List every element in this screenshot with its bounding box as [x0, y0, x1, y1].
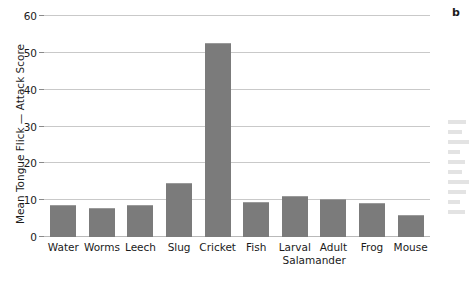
bar-cricket	[205, 43, 231, 237]
bar-slot	[44, 16, 83, 237]
x-axis-label-cricket: Cricket	[198, 241, 237, 253]
x-axis-label-frog: Frog	[353, 241, 392, 253]
bar-frog	[359, 203, 385, 237]
x-axis-label-adult: Adult	[314, 241, 353, 253]
bar-slot	[353, 16, 392, 237]
bar-slot	[83, 16, 122, 237]
figure-panel-b: b Mean Tongue Flick — Attack Score 01020…	[0, 0, 474, 284]
bleed-line	[448, 200, 460, 204]
bleed-line	[448, 130, 462, 134]
bleed-line	[448, 170, 462, 174]
bar-leech	[127, 205, 153, 237]
bar-slot	[237, 16, 276, 237]
x-axis-label-fish: Fish	[237, 241, 276, 253]
bar-slot	[160, 16, 199, 237]
y-axis-tick-label: 60	[24, 10, 37, 22]
page-bleed-through-text	[448, 120, 474, 280]
bleed-line	[448, 190, 466, 194]
bleed-line	[448, 210, 465, 214]
x-axis-sublabel-salamander: Salamander	[274, 254, 354, 266]
x-axis-label-slug: Slug	[160, 241, 199, 253]
bar-slot	[314, 16, 353, 237]
bar-slot	[391, 16, 430, 237]
y-axis-tick-label: 0	[30, 231, 37, 243]
x-axis-label-larval: Larval	[276, 241, 315, 253]
bleed-line	[448, 150, 460, 154]
panel-letter: b	[452, 6, 460, 19]
bar-water	[50, 205, 76, 237]
bar-adult	[320, 199, 346, 237]
y-axis-tick-label: 40	[24, 84, 37, 96]
x-axis-label-mouse: Mouse	[391, 241, 430, 253]
y-axis-title-wrapper: Mean Tongue Flick — Attack Score	[16, 0, 30, 221]
y-axis-tick-label: 50	[24, 47, 37, 59]
bar-slug	[166, 183, 192, 237]
y-axis-tick-label: 10	[24, 194, 37, 206]
y-axis-tick-label: 20	[24, 157, 37, 169]
plot-area: 0102030405060	[44, 16, 430, 237]
x-axis-label-leech: Leech	[121, 241, 160, 253]
bar-slot	[276, 16, 315, 237]
x-axis-labels: WaterWormsLeechSlugCricketFishLarvalAdul…	[44, 241, 430, 253]
bleed-line	[448, 120, 466, 124]
bleed-line	[448, 180, 469, 184]
x-axis-label-worms: Worms	[83, 241, 122, 253]
bar-worms	[89, 208, 115, 237]
bleed-line	[448, 140, 469, 144]
y-axis-tick-label: 30	[24, 121, 37, 133]
bar-slot	[121, 16, 160, 237]
bar-fish	[243, 202, 269, 237]
bar-slot	[198, 16, 237, 237]
x-axis-label-water: Water	[44, 241, 83, 253]
bleed-line	[448, 160, 465, 164]
bar-larval	[282, 196, 308, 237]
bar-series	[44, 16, 430, 237]
bar-mouse	[398, 215, 424, 237]
